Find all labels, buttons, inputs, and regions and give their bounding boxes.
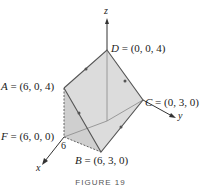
label-f: F = (6, 0, 0) — [1, 130, 54, 142]
z-axis-arrow-icon — [105, 18, 109, 24]
point-name: D — [111, 42, 119, 54]
point-coords: = (6, 3, 0) — [84, 154, 128, 166]
x-axis-label: x — [36, 162, 40, 173]
point-name: F — [1, 130, 8, 142]
point-name: A — [1, 80, 8, 92]
arrow-marker-icon — [120, 126, 123, 129]
arrow-marker-icon — [78, 112, 81, 115]
point-coords: = (0, 3, 0) — [155, 96, 199, 108]
y-axis-label: y — [178, 110, 182, 121]
z-axis-label: z — [104, 5, 108, 16]
arrow-marker-icon — [85, 68, 88, 71]
point-coords: = (6, 0, 0) — [10, 130, 54, 142]
label-b: B = (6, 3, 0) — [75, 154, 128, 166]
point-name: B — [75, 154, 82, 166]
point-name: C — [145, 96, 152, 108]
point-coords: = (0, 0, 4) — [122, 42, 166, 54]
label-a: A = (6, 0, 4) — [1, 80, 54, 92]
label-d: D = (0, 0, 4) — [111, 42, 165, 54]
point-coords: = (6, 0, 4) — [10, 80, 54, 92]
y-axis-arrow-icon — [169, 113, 176, 118]
label-c: C = (0, 3, 0) — [145, 96, 199, 108]
figure-caption: FIGURE 19 — [0, 178, 201, 187]
figure-19: z y x 6 D = (0, 0, 4) A = (6, 0, 4) C = … — [0, 0, 201, 194]
tick-6: 6 — [61, 140, 66, 152]
arrow-marker-icon — [124, 80, 127, 83]
